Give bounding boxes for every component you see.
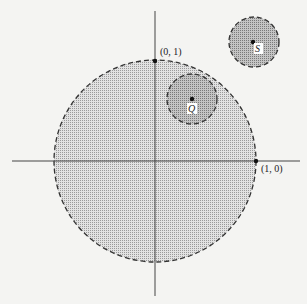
point-1-0 bbox=[254, 159, 258, 163]
label-q: Q bbox=[188, 103, 196, 114]
label-s: S bbox=[255, 43, 260, 54]
diagram-canvas: (0, 1) (1, 0) Q S bbox=[0, 0, 307, 304]
label-1-0: (1, 0) bbox=[261, 163, 283, 175]
point-q bbox=[190, 97, 194, 101]
label-0-1: (0, 1) bbox=[160, 46, 182, 58]
point-0-1 bbox=[153, 59, 157, 63]
